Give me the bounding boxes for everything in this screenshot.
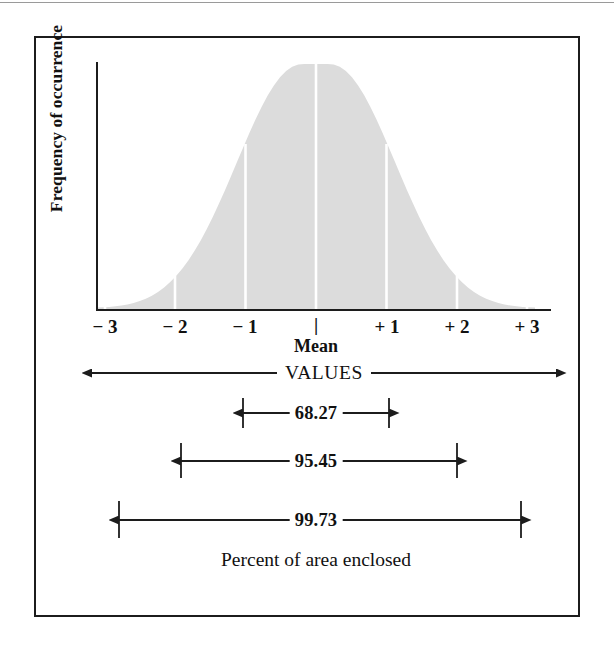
x-tick-label-plus1: + 1 xyxy=(365,316,409,338)
values-label: VALUES xyxy=(277,362,371,384)
x-tick-label-minus3: − 3 xyxy=(83,316,127,338)
x-tick-label-plus3: + 3 xyxy=(505,316,549,338)
figure-page: Frequency of occurrence − 3 − 2 − 1 | + … xyxy=(0,0,614,654)
x-tick-label-minus1: − 1 xyxy=(223,316,267,338)
normal-curve-area xyxy=(97,64,535,309)
x-tick-label-mean: | xyxy=(294,314,338,336)
span-label-68: 68.27 xyxy=(290,403,343,424)
sigma-divider-lines xyxy=(105,64,527,309)
y-axis-label: Frequency of occurrence xyxy=(46,9,67,229)
span-label-95: 95.45 xyxy=(290,451,343,472)
footer-caption: Percent of area enclosed xyxy=(56,549,576,571)
span-label-99: 99.73 xyxy=(290,510,343,531)
mean-caption: Mean xyxy=(246,336,386,357)
x-tick-label-plus2: + 2 xyxy=(435,316,479,338)
x-tick-label-minus2: − 2 xyxy=(153,316,197,338)
